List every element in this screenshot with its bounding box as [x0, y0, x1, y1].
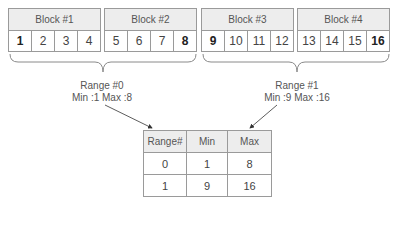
arrow-range-1 — [250, 105, 277, 128]
range-title: Range #0 — [42, 80, 162, 92]
range-1-label: Range #1 Min :9 Max :16 — [237, 80, 357, 104]
table-cell: 1 — [187, 153, 228, 175]
range-title: Range #1 — [237, 80, 357, 92]
table-cell: 16 — [228, 175, 272, 197]
table-header-row: Range# Min Max — [144, 131, 272, 153]
brace-range-1 — [203, 54, 389, 72]
table-cell: 1 — [144, 175, 187, 197]
table-cell: 9 — [187, 175, 228, 197]
table-cell: 8 — [228, 153, 272, 175]
range-detail: Min :1 Max :8 — [42, 92, 162, 104]
column-header: Range# — [144, 131, 187, 153]
column-header: Min — [187, 131, 228, 153]
brace-range-0 — [10, 54, 196, 72]
arrow-range-0 — [105, 105, 152, 128]
column-header: Max — [228, 131, 272, 153]
range-table: Range# Min Max 0 1 8 1 9 16 — [143, 130, 272, 197]
table-cell: 0 — [144, 153, 187, 175]
range-0-label: Range #0 Min :1 Max :8 — [42, 80, 162, 104]
range-detail: Min :9 Max :16 — [237, 92, 357, 104]
table-row: 0 1 8 — [144, 153, 272, 175]
table-row: 1 9 16 — [144, 175, 272, 197]
